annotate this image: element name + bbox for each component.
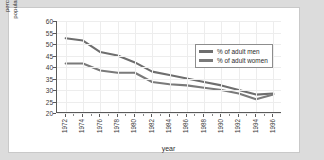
x-tick-mark (169, 114, 170, 117)
y-tick-label: 25 (46, 98, 53, 105)
x-tick-label: 1974 (78, 119, 85, 133)
legend-swatch-men (199, 50, 213, 52)
legend-label-men: % of adult men (217, 48, 260, 55)
y-tick-label: 40 (46, 64, 53, 71)
x-tick-minor (125, 114, 126, 116)
chart-page: percentage of the population who smoke 6… (0, 0, 324, 160)
x-tick-mark (238, 114, 239, 117)
legend-item-men: % of adult men (199, 47, 268, 56)
y-axis-title-line2: population who smoke (11, 0, 18, 19)
x-tick-label: 1994 (252, 119, 259, 133)
x-tick-mark (186, 114, 187, 117)
x-tick-minor (73, 114, 74, 116)
y-tick-label: 55 (46, 29, 53, 36)
gridline-vertical (273, 21, 274, 112)
x-tick-mark (272, 114, 273, 117)
y-tick-label: 50 (46, 41, 53, 48)
x-tick-label: 1996 (269, 119, 276, 133)
x-tick-label: 1986 (182, 119, 189, 133)
x-tick-minor (246, 114, 247, 116)
y-axis-labels: 605550454035302520 (9, 21, 53, 113)
y-tick-label: 45 (46, 52, 53, 59)
gridline-vertical (100, 21, 101, 112)
x-tick-minor (143, 114, 144, 116)
x-tick-minor (264, 114, 265, 116)
chart-legend: % of adult men % of adult women (195, 44, 273, 68)
x-tick-label: 1984 (165, 119, 172, 133)
x-tick-label: 1982 (148, 119, 155, 133)
gridline-vertical (170, 21, 171, 112)
legend-swatch-women (199, 59, 213, 61)
gridline-vertical (135, 21, 136, 112)
gridline-vertical (152, 21, 153, 112)
x-tick-mark (82, 114, 83, 117)
chart-card: percentage of the population who smoke 6… (8, 7, 300, 153)
x-tick-label: 1992 (234, 119, 241, 133)
x-tick-mark (117, 114, 118, 117)
x-tick-mark (134, 114, 135, 117)
x-tick-label: 1990 (217, 119, 224, 133)
x-tick-minor (229, 114, 230, 116)
x-tick-minor (194, 114, 195, 116)
x-tick-minor (212, 114, 213, 116)
x-tick-mark (255, 114, 256, 117)
x-tick-label: 1980 (130, 119, 137, 133)
legend-item-women: % of adult women (199, 56, 268, 65)
x-tick-label: 1976 (96, 119, 103, 133)
gridline-vertical (83, 21, 84, 112)
y-tick-label: 35 (46, 75, 53, 82)
x-tick-label: 1988 (200, 119, 207, 133)
gridline-vertical (66, 21, 67, 112)
x-tick-minor (108, 114, 109, 116)
x-tick-label: 1972 (61, 119, 68, 133)
x-tick-label: 1978 (113, 119, 120, 133)
legend-label-women: % of adult women (217, 57, 268, 64)
x-tick-mark (203, 114, 204, 117)
x-axis-labels: 1972197419761978198019821984198619881990… (56, 114, 281, 146)
y-axis-title-line1: percentage of the (3, 0, 10, 12)
y-tick-label: 20 (46, 110, 53, 117)
x-tick-mark (65, 114, 66, 117)
x-tick-minor (160, 114, 161, 116)
x-tick-mark (220, 114, 221, 117)
gridline-vertical (118, 21, 119, 112)
x-tick-minor (91, 114, 92, 116)
x-axis-title: year (56, 145, 281, 152)
gridline-vertical (187, 21, 188, 112)
x-tick-minor (177, 114, 178, 116)
x-tick-mark (99, 114, 100, 117)
y-tick-label: 30 (46, 87, 53, 94)
x-tick-mark (151, 114, 152, 117)
y-tick-label: 60 (46, 18, 53, 25)
